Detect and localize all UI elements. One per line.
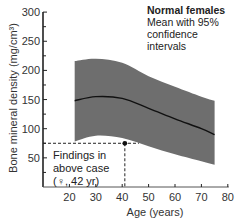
x-axis-label: Age (years) bbox=[80, 206, 230, 218]
svg-text:40: 40 bbox=[116, 191, 128, 203]
svg-text:30: 30 bbox=[90, 191, 102, 203]
case-annotation: Findings in above case (♀, 42 yr) bbox=[53, 149, 109, 188]
annotation-line: (♀, 42 yr) bbox=[53, 175, 109, 188]
legend: Normal females Mean with 95% confidence … bbox=[147, 4, 225, 52]
svg-text:300: 300 bbox=[22, 6, 40, 18]
svg-text:20: 20 bbox=[63, 191, 75, 203]
annotation-line: Findings in bbox=[53, 149, 109, 162]
svg-text:250: 250 bbox=[22, 35, 40, 47]
svg-text:60: 60 bbox=[169, 191, 181, 203]
svg-text:50: 50 bbox=[28, 152, 40, 164]
svg-text:200: 200 bbox=[22, 64, 40, 76]
svg-text:50: 50 bbox=[142, 191, 154, 203]
annotation-line: above case bbox=[53, 162, 109, 175]
legend-line: confidence bbox=[147, 28, 225, 40]
svg-text:80: 80 bbox=[222, 191, 234, 203]
legend-title: Normal females bbox=[147, 4, 225, 16]
legend-line: Mean with 95% bbox=[147, 16, 225, 28]
svg-text:70: 70 bbox=[195, 191, 207, 203]
svg-text:100: 100 bbox=[22, 123, 40, 135]
y-axis-label: Bone mineral density (mg/cm³) bbox=[7, 23, 19, 173]
legend-line: intervals bbox=[147, 40, 225, 52]
svg-text:150: 150 bbox=[22, 94, 40, 106]
